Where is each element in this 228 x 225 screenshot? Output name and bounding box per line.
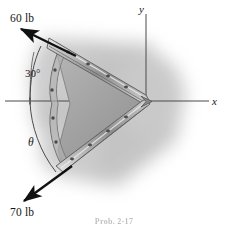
angle-30-label: 30° — [25, 67, 40, 79]
figure-caption: Prob. 2-17 — [0, 217, 228, 225]
y-axis-label: y — [138, 3, 144, 15]
force-diagram-figure: 60 lb 70 lb 30° θ y x Prob. 2-17 — [0, 0, 228, 225]
diagram-canvas: 60 lb 70 lb 30° θ y x — [0, 0, 228, 225]
force-70lb-arrow — [24, 166, 72, 201]
angle-theta-label: θ — [28, 136, 34, 148]
x-axis-label: x — [211, 95, 217, 107]
force-60lb-label: 60 lb — [10, 12, 34, 24]
